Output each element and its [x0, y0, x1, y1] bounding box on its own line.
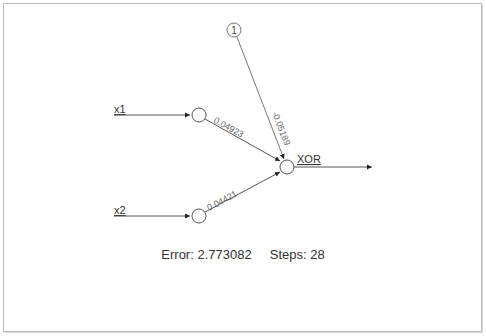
input-node-1: [192, 108, 206, 122]
output-label: XOR: [297, 153, 321, 165]
weight-x1-label: 0.04923: [212, 115, 245, 140]
error-value: 2.773082: [197, 247, 251, 262]
bias-label: 1: [231, 25, 237, 36]
input-node-2: [192, 209, 206, 223]
error-label: Error:: [161, 247, 194, 262]
network-diagram: x1 x2 1 0.04923 0.04421 -0.05189 XOR: [0, 0, 486, 336]
training-status: Error: 2.773082 Steps: 28: [0, 247, 486, 262]
output: XOR: [280, 153, 372, 174]
bias: 1: [227, 23, 241, 37]
steps-value: 28: [310, 247, 324, 262]
input-x2: x2: [114, 204, 206, 223]
input-x1-label: x1: [114, 103, 126, 115]
input-x1: x1: [114, 103, 206, 122]
input-x2-label: x2: [114, 204, 126, 216]
weight-x2-label: 0.04421: [205, 189, 238, 213]
weight-bias-label: -0.05189: [270, 110, 292, 147]
output-node: [280, 160, 294, 174]
steps-label: Steps:: [270, 247, 307, 262]
